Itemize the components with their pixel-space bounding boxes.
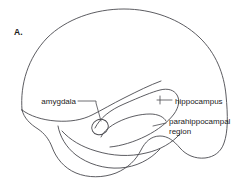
brain-diagram-figure: A. amygdala hippocampus parahippocampal … xyxy=(0,0,248,184)
cerebrum-outline xyxy=(22,9,228,177)
panel-letter: A. xyxy=(14,27,23,37)
label-parahippocampal-region-line1: parahippocampal xyxy=(169,117,231,126)
brain-diagram-svg: A. amygdala hippocampus parahippocampal … xyxy=(0,0,248,184)
parahippocampal-region-outline xyxy=(62,131,180,155)
amygdala-shape xyxy=(89,116,111,137)
amygdala-leader-line xyxy=(78,101,101,121)
label-hippocampus: hippocampus xyxy=(175,97,223,106)
parahippocampal-inner-fold xyxy=(58,126,160,168)
label-parahippocampal-region-line2: region xyxy=(169,127,191,136)
hippocampus-upper-contour xyxy=(95,89,179,147)
label-amygdala: amygdala xyxy=(41,97,76,106)
